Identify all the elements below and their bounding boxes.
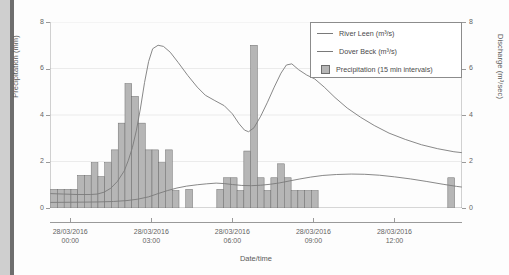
y-axis-tick-mark	[46, 69, 50, 70]
legend-label: River Leen (m³/s)	[339, 29, 395, 38]
x-tick-time: 00:00	[35, 236, 105, 245]
y-axis-right-tick-label: 4	[469, 111, 487, 118]
x-tick-date: 28/03/2016	[197, 227, 267, 236]
y-axis-right-tick-label: 6	[469, 64, 487, 71]
x-axis-tick-mark	[394, 218, 395, 223]
y-axis-tick-mark	[46, 208, 50, 209]
x-axis-tick-mark	[70, 218, 71, 223]
y-axis-tick-mark	[46, 22, 50, 23]
x-axis-tick-label: 28/03/201603:00	[116, 227, 186, 245]
y-axis-right-tick-label: 2	[469, 157, 487, 164]
legend-item-dover-beck: Dover Beck (m³/s)	[317, 43, 461, 59]
line-marker-icon	[317, 33, 333, 34]
x-axis-tick-mark	[232, 218, 233, 223]
x-axis-tick-label: 28/03/201606:00	[197, 227, 267, 245]
legend-item-river-leen: River Leen (m³/s)	[317, 25, 461, 41]
x-tick-date: 28/03/2016	[116, 227, 186, 236]
x-axis-tick-mark	[151, 218, 152, 223]
line-marker-icon	[317, 51, 333, 52]
legend-label: Precipitation (15 min intervals)	[336, 65, 433, 74]
y-axis-tick-mark	[46, 162, 50, 163]
x-tick-date: 28/03/2016	[35, 227, 105, 236]
y-axis-tick-label: 2	[26, 157, 44, 164]
legend-label: Dover Beck (m³/s)	[339, 47, 397, 56]
x-axis-title: Date/time	[50, 254, 462, 263]
x-tick-date: 28/03/2016	[278, 227, 348, 236]
y-axis-left-title: Precipitation (mm)	[11, 7, 20, 127]
y-axis-right-tick-mark	[462, 69, 466, 70]
x-axis-tick-mark	[313, 218, 314, 223]
y-axis-tick-label: 4	[26, 111, 44, 118]
x-axis-tick-label: 28/03/201609:00	[278, 227, 348, 245]
y-axis-right-tick-mark	[462, 115, 466, 116]
y-axis-tick-label: 6	[26, 64, 44, 71]
square-marker-icon	[321, 65, 330, 74]
x-axis-tick-label: 28/03/201612:00	[359, 227, 429, 245]
chart-legend: River Leen (m³/s) Dover Beck (m³/s) Prec…	[310, 22, 462, 78]
y-axis-right-tick-mark	[462, 208, 466, 209]
y-axis-tick-label: 0	[26, 204, 44, 211]
scan-binding-edge	[0, 0, 10, 275]
x-tick-time: 12:00	[359, 236, 429, 245]
x-axis-line	[50, 222, 462, 223]
y-axis-right-tick-label: 0	[469, 204, 487, 211]
x-axis-tick-label: 28/03/201600:00	[35, 227, 105, 245]
y-axis-tick-label: 8	[26, 18, 44, 25]
x-tick-time: 09:00	[278, 236, 348, 245]
y-axis-right-title: Discharge (m³/sec)	[496, 7, 505, 127]
legend-item-precipitation: Precipitation (15 min intervals)	[317, 61, 461, 77]
x-tick-time: 03:00	[116, 236, 186, 245]
y-axis-right-tick-mark	[462, 22, 466, 23]
y-axis-right-tick-label: 8	[469, 18, 487, 25]
x-tick-date: 28/03/2016	[359, 227, 429, 236]
y-axis-tick-mark	[46, 115, 50, 116]
x-tick-time: 06:00	[197, 236, 267, 245]
hydrograph-chart: Precipitation (mm) Discharge (m³/sec) Da…	[0, 0, 509, 275]
y-axis-right-tick-mark	[462, 162, 466, 163]
